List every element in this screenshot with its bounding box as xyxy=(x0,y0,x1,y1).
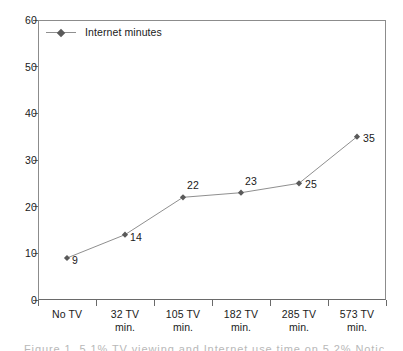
data-point-value-label: 23 xyxy=(245,176,257,186)
data-point-value-label: 35 xyxy=(363,133,375,143)
series-line xyxy=(67,137,357,258)
data-point-marker xyxy=(238,190,244,196)
data-point-value-label: 9 xyxy=(72,255,78,265)
data-point-marker xyxy=(180,194,186,200)
series-markers xyxy=(64,134,360,262)
data-point-value-label: 22 xyxy=(187,180,199,190)
legend-label: Internet minutes xyxy=(85,27,162,38)
chart-legend: Internet minutes xyxy=(46,27,162,38)
cut-off-caption: Figure 1. 5.1% TV viewing and Internet u… xyxy=(24,343,384,351)
series-internet-minutes xyxy=(0,0,403,351)
data-point-marker xyxy=(122,232,128,238)
data-point-value-label: 25 xyxy=(305,179,317,189)
legend-marker-swatch xyxy=(46,27,76,38)
line-chart: 6050403020100 No TV32 TVmin.105 TVmin.18… xyxy=(0,0,403,351)
data-point-marker xyxy=(64,255,70,261)
data-point-value-label: 14 xyxy=(130,232,142,242)
diamond-marker-icon xyxy=(57,28,65,36)
